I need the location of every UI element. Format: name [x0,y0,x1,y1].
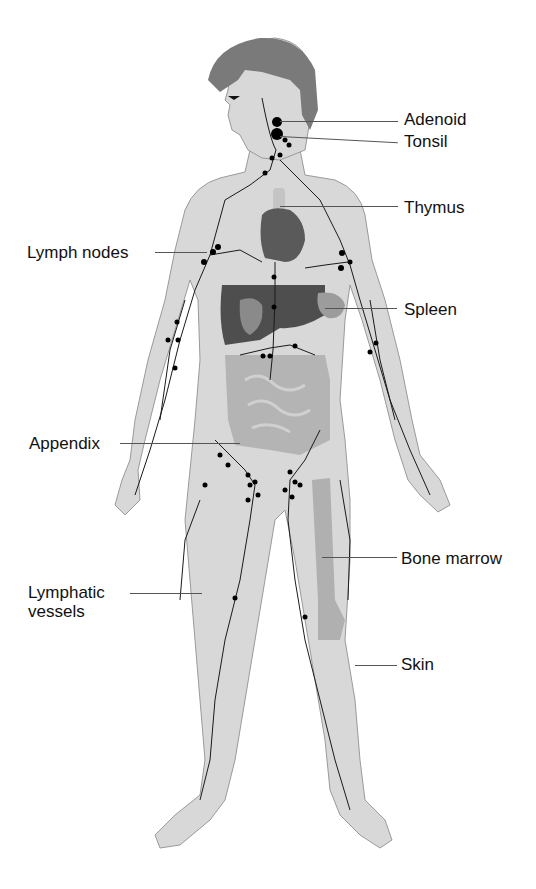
label-thymus: Thymus [404,198,464,217]
label-lymphatic-vessels-line1: Lymphatic [28,583,105,602]
skin-leader-line [355,665,397,666]
intestine-organ [225,355,330,455]
thymus-leader-line [280,206,398,207]
spleen-leader-line [325,308,397,309]
label-lymphatic-vessels-line2: vessels [28,602,85,621]
adenoid-leader-line [280,121,398,122]
label-lymph-nodes: Lymph nodes [27,243,128,262]
label-adenoid: Adenoid [404,110,466,129]
label-bone-marrow: Bone marrow [401,549,502,568]
bone-marrow-leader-line [322,557,397,558]
appendix-leader-line [120,443,240,444]
label-appendix: Appendix [29,434,100,453]
lymph-nodes-leader-line [155,252,207,253]
lymphatic-vessels-leader-line [130,593,202,594]
label-skin: Skin [401,655,434,674]
label-tonsil: Tonsil [404,132,447,151]
label-spleen: Spleen [404,300,457,319]
